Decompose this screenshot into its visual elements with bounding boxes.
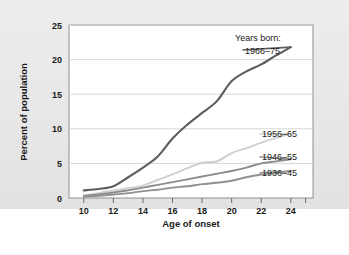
- y-tick-label: 25: [52, 21, 62, 31]
- legend-title: Years born:: [235, 33, 281, 43]
- y-axis-ticks: 0510152025: [52, 21, 62, 204]
- y-tick-label: 20: [52, 55, 62, 65]
- figure-container: 0510152025 1012141618202224 Percent of p…: [0, 0, 349, 255]
- legend-label-1946-55: 1946–55: [262, 152, 297, 162]
- y-tick-label: 0: [57, 194, 62, 204]
- x-axis-ticks: 1012141618202224: [79, 198, 306, 216]
- y-tick-label: 15: [52, 90, 62, 100]
- x-tick-label: 14: [138, 206, 148, 216]
- x-tick-label: 18: [197, 206, 207, 216]
- x-tick-label: 10: [79, 206, 89, 216]
- line-chart: 0510152025 1012141618202224 Percent of p…: [0, 0, 349, 255]
- x-tick-label: 16: [168, 206, 178, 216]
- x-tick-label: 12: [108, 206, 118, 216]
- legend-label-1936-45: 1936–45: [262, 168, 297, 178]
- y-axis-label: Percent of population: [18, 63, 29, 161]
- y-tick-label: 5: [57, 159, 62, 169]
- x-axis-label: Age of onset: [162, 218, 220, 229]
- y-tick-label: 10: [52, 124, 62, 134]
- x-tick-label: 24: [286, 206, 296, 216]
- x-tick-label: 20: [227, 206, 237, 216]
- legend-label-1966-75: 1966–75: [245, 46, 280, 56]
- x-tick-label: 22: [256, 206, 266, 216]
- legend-label-1956-65: 1956–65: [262, 129, 297, 139]
